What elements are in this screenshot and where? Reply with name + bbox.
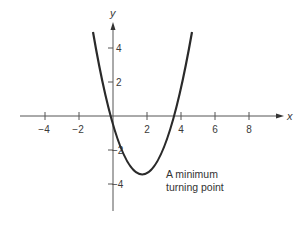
parabola-curve [93,32,192,175]
svg-text:4: 4 [178,124,184,135]
annotation-line1: A minimum [166,168,218,180]
svg-text:−4: −4 [38,124,50,135]
svg-text:8: 8 [246,124,252,135]
svg-text:4: 4 [116,43,122,54]
svg-text:−2: −2 [72,124,84,135]
svg-text:2: 2 [144,124,150,135]
svg-text:6: 6 [212,124,218,135]
y-axis-arrow-icon [111,22,116,30]
annotation-line2: turning point [166,181,224,193]
svg-text:−4: −4 [112,179,124,190]
y-axis-label: y [109,7,117,19]
x-tick-labels: −4 −2 2 4 6 8 [38,124,252,135]
chart: x y −4 −2 2 4 6 8 4 2 −2 −4 A minimum tu… [0,0,305,225]
svg-text:2: 2 [116,77,122,88]
x-axis-label: x [286,110,293,122]
x-axis-arrow-icon [276,114,284,119]
